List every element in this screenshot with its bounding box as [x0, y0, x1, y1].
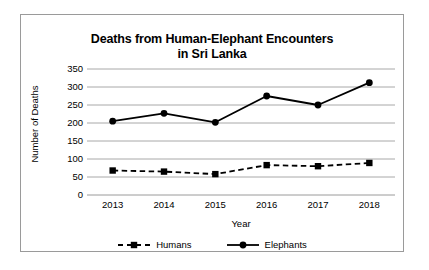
chart-title-line-2: in Sri Lanka	[21, 47, 403, 62]
data-point-elephants-2016	[263, 93, 270, 100]
data-point-elephants-2014	[161, 110, 168, 117]
series-line-elephants	[113, 83, 370, 123]
x-tick-label-2014: 2014	[141, 199, 187, 210]
legend-item-humans[interactable]: Humans	[117, 239, 191, 250]
chart-frame: Deaths from Human-Elephant Encounters in…	[20, 14, 404, 252]
chart-legend: HumansElephants	[21, 239, 403, 250]
y-axis-tick-labels: 050100150200250300350	[55, 69, 83, 195]
y-axis-title: Number of Deaths	[29, 69, 43, 179]
legend-swatch-solid-circle-icon	[226, 240, 260, 250]
y-tick-label: 200	[57, 118, 83, 128]
series-line-humans	[113, 163, 370, 174]
y-tick-label: 0	[57, 190, 83, 200]
data-point-humans-2018	[366, 160, 372, 166]
y-tick-label: 50	[57, 172, 83, 182]
x-tick-label-2013: 2013	[90, 199, 136, 210]
plot-area	[87, 69, 395, 195]
y-tick-label: 100	[57, 154, 83, 164]
legend-item-elephants[interactable]: Elephants	[226, 239, 307, 250]
y-tick-label: 300	[57, 82, 83, 92]
legend-swatch-dashed-square-icon	[117, 240, 151, 250]
x-axis-title: Year	[87, 218, 395, 229]
y-tick-label: 350	[57, 64, 83, 74]
x-tick-label-2017: 2017	[295, 199, 341, 210]
data-point-humans-2013	[109, 167, 115, 173]
data-point-humans-2016	[263, 162, 269, 168]
plot-svg	[87, 69, 395, 195]
data-point-humans-2014	[161, 168, 167, 174]
x-tick-label-2016: 2016	[244, 199, 290, 210]
x-tick-label-2018: 2018	[346, 199, 392, 210]
legend-label: Humans	[156, 239, 191, 250]
data-point-elephants-2018	[366, 79, 373, 86]
y-tick-label: 150	[57, 136, 83, 146]
x-tick-label-2015: 2015	[192, 199, 238, 210]
data-point-humans-2017	[315, 163, 321, 169]
data-point-elephants-2013	[109, 118, 116, 125]
data-point-elephants-2015	[212, 119, 219, 126]
legend-label: Elephants	[265, 239, 307, 250]
data-point-humans-2015	[212, 171, 218, 177]
chart-title: Deaths from Human-Elephant Encounters in…	[21, 32, 403, 62]
x-axis-tick-labels: 201320142015201620172018	[87, 199, 395, 213]
y-tick-label: 250	[57, 100, 83, 110]
chart-title-line-1: Deaths from Human-Elephant Encounters	[21, 32, 403, 47]
data-point-elephants-2017	[315, 102, 322, 109]
